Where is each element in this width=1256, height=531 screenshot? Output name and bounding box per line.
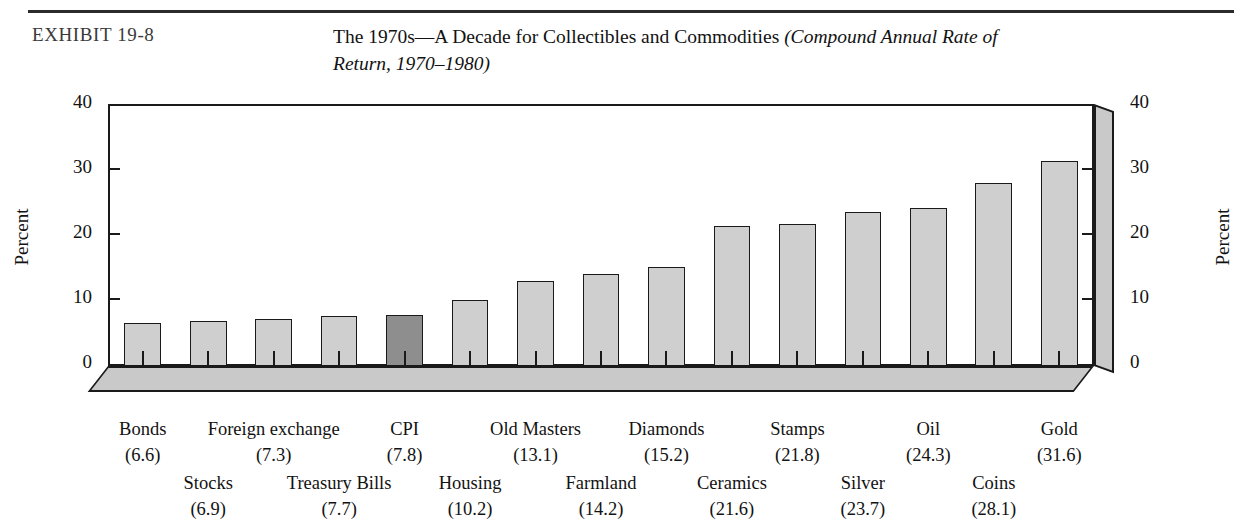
bar-base-tick	[207, 351, 209, 365]
y-tick-right-10	[1082, 298, 1094, 300]
bar-series	[110, 106, 1092, 366]
side-panel-face	[1094, 104, 1114, 373]
y-tick-label-left-40: 40	[58, 91, 92, 113]
title-main: The 1970s—A Decade for Collectibles and …	[333, 26, 784, 47]
y-tick-label-right-40: 40	[1130, 91, 1164, 113]
bar-foreign-exchange[interactable]	[255, 319, 292, 366]
bar-base-tick	[731, 351, 733, 365]
bar-base-tick	[338, 351, 340, 365]
y-tick-left-20	[108, 233, 120, 235]
bar-housing[interactable]	[452, 300, 489, 366]
y-tick-label-right-10: 10	[1130, 286, 1164, 308]
title-subtitle-part2: Return, 1970–1980)	[333, 53, 490, 74]
y-tick-label-left-0: 0	[58, 351, 92, 373]
chart-3d-floor	[108, 366, 1114, 392]
bar-coins[interactable]	[975, 183, 1012, 366]
bar-diamonds[interactable]	[648, 267, 685, 366]
bar-base-tick	[665, 351, 667, 365]
bar-gold[interactable]	[1041, 161, 1078, 366]
bar-chart: 010203040 010203040 Percent Percent	[0, 86, 1256, 416]
bar-stamps[interactable]	[779, 224, 816, 366]
title-subtitle-part1: (Compound Annual Rate of	[784, 26, 998, 47]
y-tick-label-right-0: 0	[1130, 351, 1164, 373]
category-name: Gold	[969, 416, 1149, 442]
bar-base-tick	[142, 351, 144, 365]
floor-slab	[88, 366, 1094, 392]
category-value: (31.6)	[969, 442, 1149, 468]
bar-base-tick	[600, 351, 602, 365]
y-tick-left-30	[108, 168, 120, 170]
y-tick-right-30	[1082, 168, 1094, 170]
exhibit-label: EXHIBIT 19-8	[32, 24, 154, 46]
bar-base-tick	[1058, 351, 1060, 365]
bar-old-masters[interactable]	[517, 281, 554, 366]
y-tick-label-right-30: 30	[1130, 156, 1164, 178]
bar-base-tick	[796, 351, 798, 365]
y-tick-label-left-20: 20	[58, 221, 92, 243]
bar-base-tick	[993, 351, 995, 365]
bar-base-tick	[862, 351, 864, 365]
bar-base-tick	[469, 351, 471, 365]
bar-farmland[interactable]	[583, 274, 620, 366]
bar-base-tick	[273, 351, 275, 365]
chart-3d-side-panel	[1094, 104, 1114, 366]
y-axis-left-title: Percent	[11, 209, 33, 266]
bar-base-tick	[535, 351, 537, 365]
bar-base-tick	[404, 351, 406, 365]
category-value: (28.1)	[904, 496, 1084, 522]
category-labels: Bonds(6.6)Stocks(6.9)Foreign exchange(7.…	[110, 416, 1092, 526]
bar-treasury-bills[interactable]	[321, 316, 358, 366]
y-axis-right-title: Percent	[1212, 209, 1234, 266]
bar-ceramics[interactable]	[714, 226, 751, 366]
bar-silver[interactable]	[845, 212, 882, 366]
header-rule	[28, 10, 1234, 13]
bar-bonds[interactable]	[124, 323, 161, 366]
page-title: The 1970s—A Decade for Collectibles and …	[333, 23, 1238, 77]
y-tick-label-left-30: 30	[58, 156, 92, 178]
category-label-gold: Gold(31.6)	[969, 416, 1149, 468]
category-label-coins: Coins(28.1)	[904, 470, 1084, 522]
y-tick-left-10	[108, 298, 120, 300]
bar-oil[interactable]	[910, 208, 947, 366]
y-tick-label-right-20: 20	[1130, 221, 1164, 243]
category-name: Coins	[904, 470, 1084, 496]
bar-stocks[interactable]	[190, 321, 227, 366]
bar-cpi[interactable]	[386, 315, 423, 366]
bar-base-tick	[927, 351, 929, 365]
y-tick-label-left-10: 10	[58, 286, 92, 308]
y-tick-right-20	[1082, 233, 1094, 235]
